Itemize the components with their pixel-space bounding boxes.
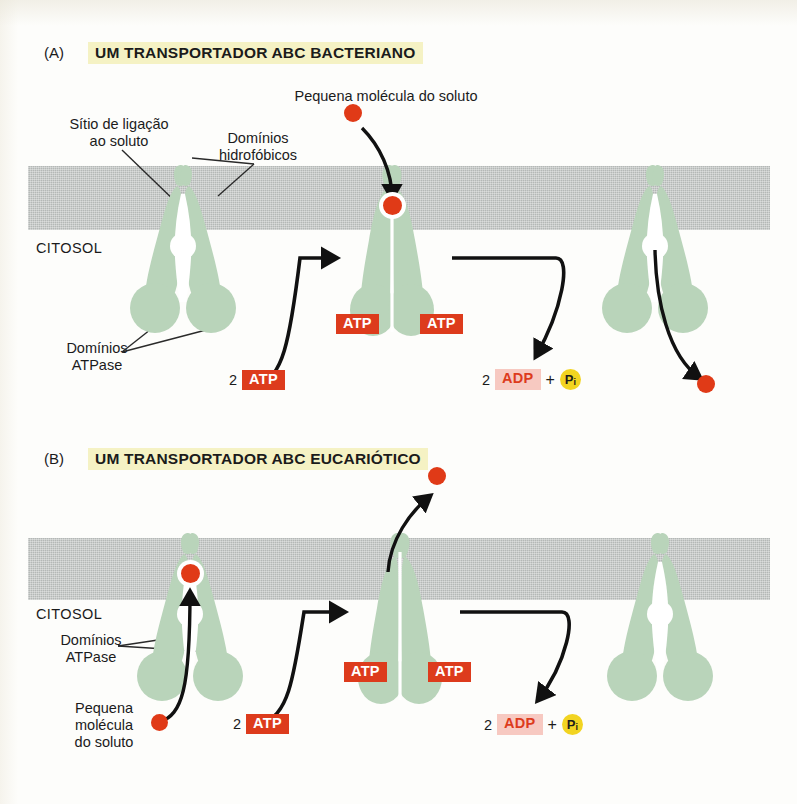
- atp-chip-label: ATP: [344, 662, 387, 682]
- arrow-step-b-2-to-3: [460, 612, 569, 700]
- adp-output-count: 2: [482, 372, 490, 388]
- solute-dot-extracellular-panel-a: [344, 104, 362, 122]
- atp-input-count: 2: [233, 716, 241, 732]
- solute-dot-extracellular-panel-b: [428, 467, 446, 485]
- diagram-graphics: [0, 0, 797, 804]
- plus-sign: +: [546, 371, 555, 389]
- adp-output-count: 2: [484, 717, 492, 733]
- phosphate-subscript: i: [576, 723, 579, 732]
- adp-chip-label: ADP: [497, 714, 543, 734]
- atp-bound-right-panel-a: ATP: [420, 314, 463, 334]
- atp-chip-label: ATP: [428, 662, 471, 682]
- atp-bound-left-panel-a: ATP: [336, 314, 379, 334]
- adp-output-panel-b: 2 ADP + Pi: [484, 714, 583, 735]
- atp-input-panel-b: 2 ATP: [233, 714, 289, 734]
- transporter-a-state-1-open-outward: [130, 165, 236, 333]
- atp-bound-left-panel-b: ATP: [344, 662, 387, 682]
- solute-dot-bound-panel-a: [383, 196, 402, 215]
- plus-sign: +: [548, 716, 557, 734]
- phosphate-letter: P: [565, 373, 574, 386]
- transporter-b-state-3-open-inward: [607, 533, 713, 701]
- atp-chip-label: ATP: [336, 314, 379, 334]
- phosphate-chip: Pi: [562, 714, 583, 735]
- atp-input-count: 2: [229, 372, 237, 388]
- atp-chip-label: ATP: [420, 314, 463, 334]
- solute-dot-bound-panel-b: [181, 564, 200, 583]
- arrow-step-a-2-to-3: [452, 258, 564, 356]
- atp-chip-label: ATP: [246, 714, 289, 734]
- phosphate-chip: Pi: [560, 369, 581, 390]
- atp-chip-label: ATP: [242, 370, 285, 390]
- phosphate-letter: P: [567, 718, 576, 731]
- arrow-step-a-1-to-2: [258, 258, 336, 382]
- transporter-a-state-3-open-inward: [602, 165, 708, 333]
- solute-dot-cytosolic-panel-a: [697, 375, 715, 393]
- adp-output-panel-a: 2 ADP + Pi: [482, 369, 581, 390]
- atp-bound-right-panel-b: ATP: [428, 662, 471, 682]
- adp-chip-label: ADP: [495, 369, 541, 389]
- atp-input-panel-a: 2 ATP: [229, 370, 285, 390]
- solute-dot-legend-panel-b: [151, 714, 168, 731]
- arrow-step-b-1-to-2: [262, 612, 344, 722]
- phosphate-subscript: i: [574, 378, 577, 387]
- abc-transporter-figure: (A) UM TRANSPORTADOR ABC BACTERIANO CITO…: [0, 0, 797, 804]
